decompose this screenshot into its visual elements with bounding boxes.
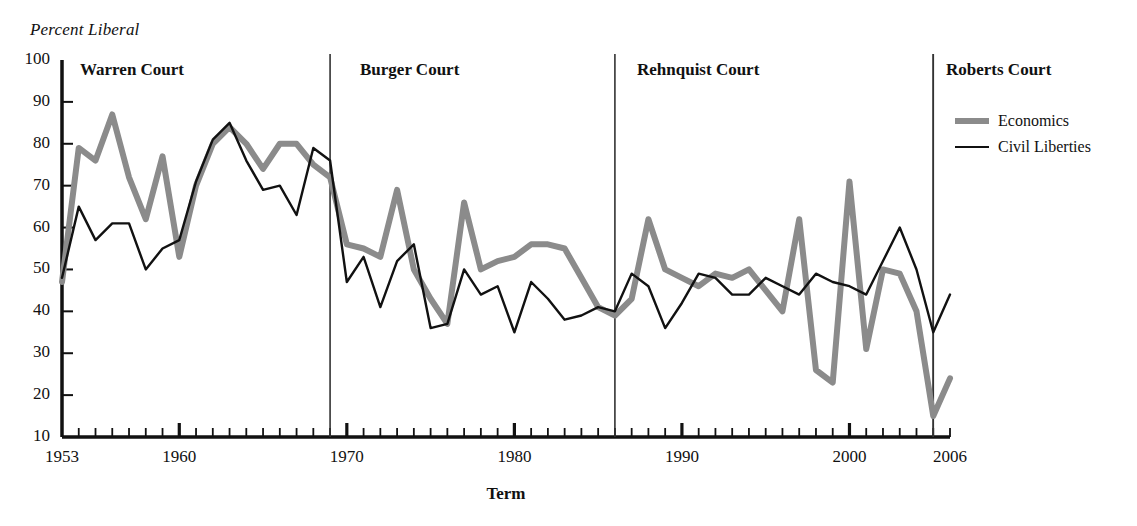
series-line-civil-liberties [62, 123, 950, 332]
court-label-rehnquist-court: Rehnquist Court [637, 60, 759, 80]
chart-legend: EconomicsCivil Liberties [955, 108, 1091, 160]
y-tick-label: 100 [12, 49, 50, 69]
y-tick-label: 60 [12, 217, 50, 237]
y-tick-label: 10 [12, 426, 50, 446]
legend-swatch-civil-liberties [955, 146, 989, 148]
legend-item: Civil Liberties [955, 134, 1091, 160]
y-tick-label: 30 [12, 342, 50, 362]
x-tick-label: 2000 [814, 447, 884, 467]
x-tick-label: 1990 [647, 447, 717, 467]
y-tick-label: 20 [12, 384, 50, 404]
y-tick-label: 70 [12, 175, 50, 195]
legend-label: Economics [998, 112, 1069, 130]
y-tick-label: 50 [12, 258, 50, 278]
legend-swatch-economics [955, 118, 989, 124]
court-label-roberts-court: Roberts Court [946, 60, 1051, 80]
x-tick-label: 1953 [27, 447, 97, 467]
y-tick-label: 80 [12, 133, 50, 153]
court-label-burger-court: Burger Court [360, 60, 459, 80]
y-tick-label: 40 [12, 300, 50, 320]
chart-root: Percent Liberal 102030405060708090100 19… [0, 0, 1137, 526]
series-line-economics [62, 114, 950, 416]
x-tick-label: 1960 [144, 447, 214, 467]
y-tick-label: 90 [12, 91, 50, 111]
x-tick-label: 1970 [312, 447, 382, 467]
x-tick-label: 1980 [479, 447, 549, 467]
x-tick-label: 2006 [915, 447, 985, 467]
x-axis-title: Term [62, 484, 950, 504]
legend-label: Civil Liberties [998, 138, 1091, 156]
legend-item: Economics [955, 108, 1091, 134]
court-label-warren-court: Warren Court [80, 60, 184, 80]
